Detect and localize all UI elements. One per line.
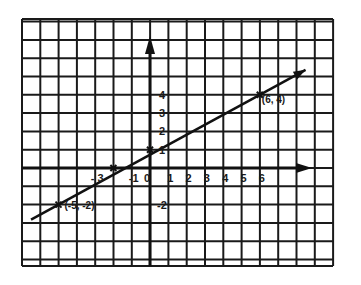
y-axis-arrow [145, 36, 155, 54]
x-tick-label: 5 [240, 172, 246, 184]
x-axis-arrow [296, 163, 312, 173]
y-tick-label: 1 [159, 144, 165, 156]
x-tick-label: 2 [186, 172, 192, 184]
x-tick-label: 3 [204, 172, 210, 184]
y-tick-label: 3 [159, 107, 165, 119]
x-tick-label: 6 [259, 172, 265, 184]
y-tick-label: 4 [159, 89, 166, 101]
y-tick-label: 2 [159, 125, 165, 137]
x-tick-label: - 3 [91, 172, 104, 184]
x-tick-label: 1 [167, 172, 173, 184]
coordinate-plane: - 3-101234564321-2 (-5, -2)(6, 4) [0, 0, 361, 285]
point-label: (6, 4) [262, 94, 285, 105]
x-tick-label: 4 [222, 172, 229, 184]
axes [22, 36, 312, 266]
y-tick-label: -2 [157, 199, 167, 211]
point-label: (-5, -2) [65, 200, 95, 211]
x-tick-label: -1 [129, 172, 139, 184]
grid [22, 19, 333, 266]
point-labels: (-5, -2)(6, 4) [65, 94, 286, 211]
series-arrow [293, 70, 306, 80]
x-tick-label: 0 [144, 172, 150, 184]
